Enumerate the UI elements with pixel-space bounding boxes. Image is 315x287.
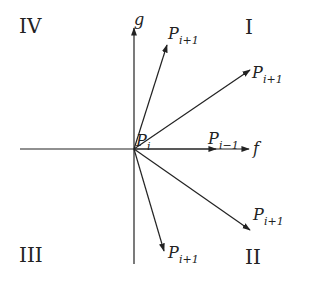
- svg-text:P: P: [207, 129, 219, 148]
- svg-text:i: i: [147, 140, 151, 153]
- quadrant-label-i: I: [245, 15, 253, 39]
- svg-text:P: P: [252, 205, 264, 224]
- svg-text:i+1: i+1: [263, 73, 283, 86]
- vector-q2-steep: [134, 149, 164, 251]
- next-point-label-q2-shallow: P i+1: [252, 205, 284, 228]
- svg-text:i+1: i+1: [179, 34, 199, 47]
- svg-text:P: P: [167, 24, 179, 43]
- vector-diagram: IV I III II g f P i P i−1 P i+1 P i+1 P …: [0, 0, 315, 287]
- axis-label-f: f: [252, 139, 262, 158]
- svg-text:i+1: i+1: [264, 215, 284, 228]
- quadrant-label-iv: IV: [19, 14, 42, 38]
- svg-text:P: P: [251, 63, 263, 82]
- next-point-label-q1-steep: P i+1: [167, 24, 199, 47]
- svg-text:P: P: [135, 131, 147, 150]
- quadrant-label-ii: II: [245, 245, 261, 269]
- origin-label: P i: [135, 131, 151, 153]
- next-point-label-q2-steep: P i+1: [167, 243, 199, 266]
- quadrant-label-iii: III: [19, 243, 43, 267]
- svg-text:i+1: i+1: [179, 253, 199, 266]
- svg-text:P: P: [167, 243, 179, 262]
- vector-q2-shallow: [134, 149, 250, 230]
- next-point-label-q1-shallow: P i+1: [251, 63, 283, 86]
- axis-label-g: g: [134, 10, 144, 29]
- vector-q1-shallow: [134, 70, 250, 149]
- svg-text:i−1: i−1: [219, 139, 239, 152]
